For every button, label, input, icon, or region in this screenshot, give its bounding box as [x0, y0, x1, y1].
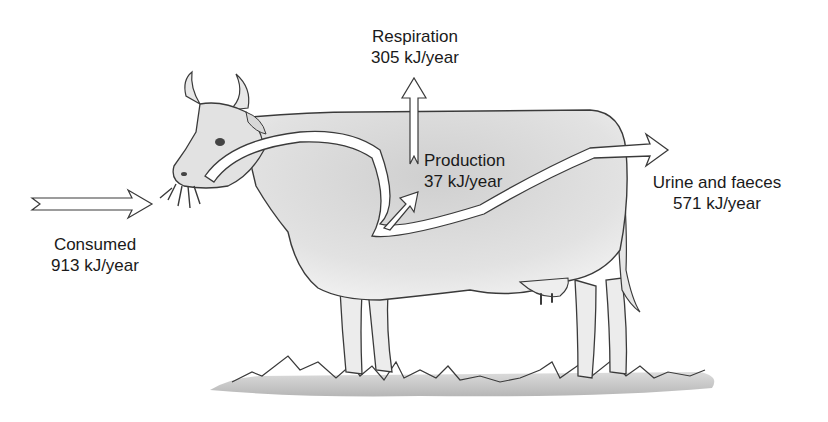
respiration-value: 305 kJ/year — [355, 47, 475, 68]
production-name: Production — [424, 150, 534, 171]
respiration-label: Respiration 305 kJ/year — [355, 26, 475, 68]
waste-value: 571 kJ/year — [632, 193, 802, 214]
production-label: Production 37 kJ/year — [424, 150, 534, 192]
waste-name: Urine and faeces — [632, 172, 802, 193]
consumed-label: Consumed 913 kJ/year — [30, 234, 160, 276]
grass-ground — [210, 356, 714, 396]
respiration-name: Respiration — [355, 26, 475, 47]
consumed-name: Consumed — [30, 234, 160, 255]
production-value: 37 kJ/year — [424, 171, 534, 192]
waste-label: Urine and faeces 571 kJ/year — [632, 172, 802, 214]
cow-head — [160, 72, 266, 208]
consumed-arrow — [32, 190, 152, 218]
consumed-value: 913 kJ/year — [30, 255, 160, 276]
